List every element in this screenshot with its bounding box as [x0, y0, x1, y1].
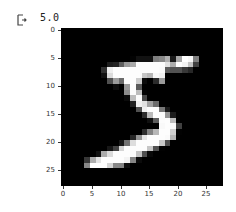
digit-image-plot: [61, 28, 222, 185]
pixel-cell: [216, 179, 222, 185]
y-tick-label: 10: [41, 82, 55, 90]
y-tick-label: 15: [41, 110, 55, 118]
y-tick-label: 5: [41, 54, 55, 62]
y-tick-label: 0: [41, 26, 55, 34]
y-tick-label: 20: [41, 138, 55, 146]
x-tick-label: 15: [142, 190, 156, 198]
x-tick-label: 0: [56, 190, 70, 198]
x-tick-label: 5: [85, 190, 99, 198]
x-tick-label: 25: [199, 190, 213, 198]
output-arrow-icon: [16, 14, 28, 26]
y-tick-label: 25: [41, 166, 55, 174]
x-tick-label: 10: [114, 190, 128, 198]
cell-output-text: 5.0: [40, 12, 60, 23]
x-tick-label: 20: [171, 190, 185, 198]
